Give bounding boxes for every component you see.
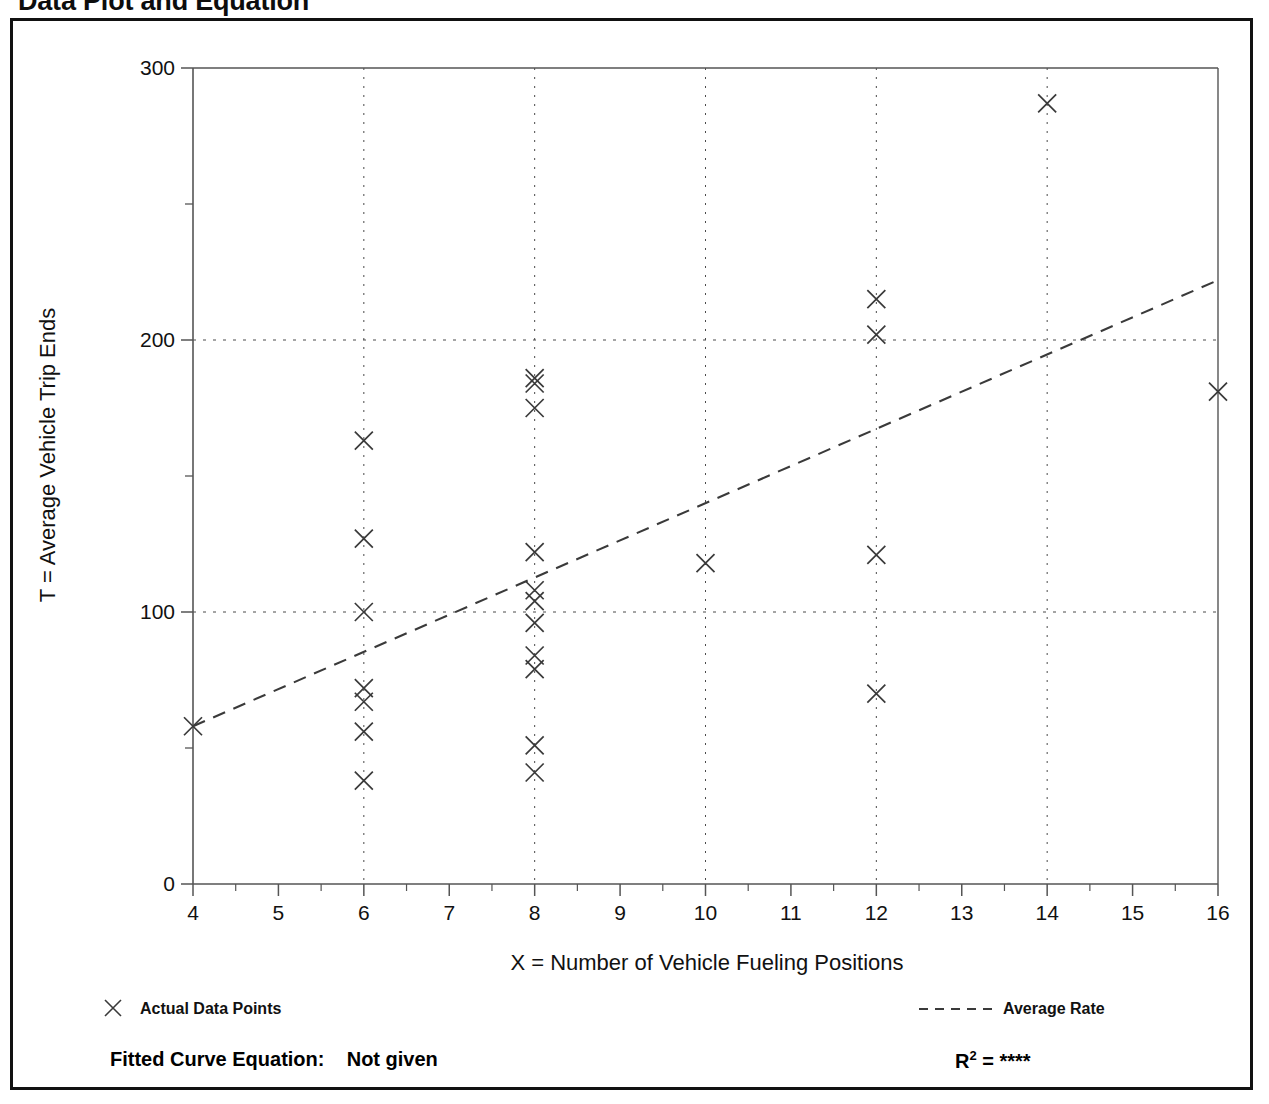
legend-item-data-points: Actual Data Points — [140, 1000, 281, 1018]
legend-label-data-points: Actual Data Points — [140, 1000, 281, 1017]
y-tick-label: 300 — [111, 56, 175, 80]
page-title: Data Plot and Equation — [18, 0, 309, 17]
dashed-line-icon — [917, 1003, 995, 1015]
y-tick-label: 0 — [111, 872, 175, 896]
x-tick-label: 5 — [273, 901, 285, 925]
equation-label: Fitted Curve Equation: — [110, 1048, 324, 1070]
y-tick-label: 100 — [111, 600, 175, 624]
x-tick-label: 16 — [1206, 901, 1229, 925]
y-tick-label: 200 — [111, 328, 175, 352]
x-tick-label: 7 — [443, 901, 455, 925]
x-tick-label: 14 — [1035, 901, 1058, 925]
r2-label: R — [955, 1050, 969, 1072]
x-tick-label: 15 — [1121, 901, 1144, 925]
x-tick-label: 8 — [529, 901, 541, 925]
x-axis-label: X = Number of Vehicle Fueling Positions — [510, 950, 903, 976]
x-tick-label: 6 — [358, 901, 370, 925]
x-marker-icon — [102, 997, 124, 1019]
r-squared-value: R2 = **** — [955, 1048, 1031, 1073]
equation-value: Not given — [347, 1048, 438, 1070]
r2-equals: = — [982, 1050, 994, 1072]
x-tick-label: 12 — [865, 901, 888, 925]
r2-exponent: 2 — [969, 1048, 976, 1063]
legend-item-average-rate: Average Rate — [1003, 1000, 1105, 1018]
x-tick-label: 4 — [187, 901, 199, 925]
x-tick-label: 11 — [780, 901, 802, 925]
fitted-curve-equation: Fitted Curve Equation: Not given — [110, 1048, 438, 1071]
x-tick-label: 13 — [950, 901, 973, 925]
chart-frame — [10, 18, 1253, 1090]
x-tick-label: 10 — [694, 901, 717, 925]
legend-label-average-rate: Average Rate — [1003, 1000, 1105, 1017]
x-tick-label: 9 — [614, 901, 626, 925]
r2-stars: **** — [1000, 1050, 1031, 1072]
y-axis-label: T = Average Vehicle Trip Ends — [35, 308, 61, 603]
plot-area — [13, 21, 1250, 1087]
